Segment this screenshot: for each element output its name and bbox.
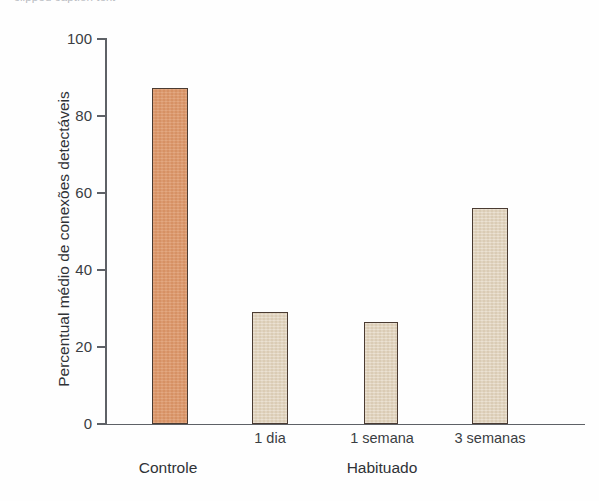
bar-controle — [152, 88, 188, 424]
bar-3-semanas — [472, 208, 508, 424]
chart-figure: clipped caption text 0 20 40 60 80 100 — [0, 0, 599, 501]
y-tick-mark-60 — [97, 192, 106, 194]
x-tick-label-1-dia: 1 dia — [254, 430, 285, 446]
y-tick-mark-20 — [97, 346, 106, 348]
y-tick-mark-40 — [97, 269, 106, 271]
group-label-controle: Controle — [139, 459, 198, 477]
group-label-habituado: Habituado — [347, 459, 418, 477]
x-tick-label-3-semanas: 3 semanas — [455, 430, 526, 446]
y-axis-line — [105, 38, 107, 425]
y-tick-label-100: 100 — [32, 30, 92, 47]
bar-1-semana — [364, 322, 398, 424]
plot-area: 0 20 40 60 80 100 Percentual médio de co… — [0, 0, 599, 501]
y-tick-mark-0 — [97, 423, 106, 425]
y-tick-mark-80 — [97, 115, 106, 117]
bar-1-dia — [252, 312, 288, 424]
y-axis-title: Percentual médio de conexões detectáveis — [55, 49, 73, 429]
y-tick-mark-100 — [97, 38, 106, 40]
x-tick-label-1-semana: 1 semana — [350, 430, 414, 446]
